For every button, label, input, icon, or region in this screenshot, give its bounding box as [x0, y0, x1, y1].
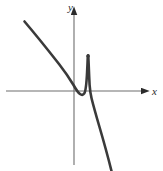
y-axis-label: y: [68, 2, 73, 13]
graph-canvas: [0, 0, 163, 171]
curve-right-branch: [88, 56, 111, 171]
x-axis-label: x: [152, 86, 157, 97]
curve-spike-cap: [88, 55, 89, 56]
function-graph-figure: y x: [0, 0, 163, 171]
curve-left-branch: [25, 22, 88, 95]
